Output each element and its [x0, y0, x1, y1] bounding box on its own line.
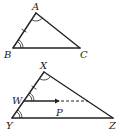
vertex-label-z: Z	[108, 120, 117, 131]
point-label-w: W	[12, 95, 23, 106]
triangle-abc: A B C	[3, 1, 88, 60]
point-label-p: P	[55, 107, 63, 118]
angle-y-arc-inner	[17, 111, 20, 118]
geometry-diagram: A B C X W P Y Z	[0, 0, 125, 136]
side-xz	[44, 72, 113, 118]
vertex-label-c: C	[80, 49, 88, 60]
arrowhead-p	[55, 99, 60, 104]
vertex-label-a: A	[31, 1, 39, 12]
angle-w-arc-inner	[29, 94, 32, 101]
triangle-xyz: X W P Y Z	[6, 60, 117, 131]
vertex-label-y: Y	[6, 120, 14, 131]
vertex-label-x: X	[39, 60, 48, 71]
angle-b-arc-inner	[17, 41, 21, 48]
vertex-label-b: B	[3, 49, 11, 60]
